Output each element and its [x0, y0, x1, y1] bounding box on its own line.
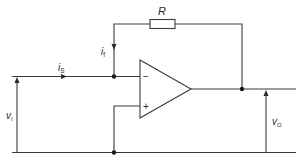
opamp-plus-sign: +: [143, 101, 149, 112]
noninverting-wire: [114, 106, 140, 152]
output-voltage-arrow-icon: [264, 90, 269, 96]
opamp-minus-sign: −: [143, 71, 149, 82]
feedback-current-label: if: [101, 46, 105, 58]
input-voltage-label: vI: [6, 110, 13, 122]
junction-ground-node: [112, 150, 116, 154]
resistor-label: R: [158, 5, 166, 17]
output-voltage-label: vO: [272, 116, 282, 128]
input-voltage-arrow-icon: [15, 77, 20, 83]
source-current-arrow-icon: [61, 74, 67, 79]
junction-inverting-node: [112, 74, 116, 78]
feedback-wire-right: [175, 24, 242, 89]
circuit-diagram: R if iS − + vI vO: [0, 0, 303, 162]
source-current-label: iS: [58, 62, 65, 74]
resistor-r: [150, 20, 175, 29]
junction-output-node: [240, 87, 244, 91]
feedback-current-arrow-icon: [112, 44, 117, 50]
